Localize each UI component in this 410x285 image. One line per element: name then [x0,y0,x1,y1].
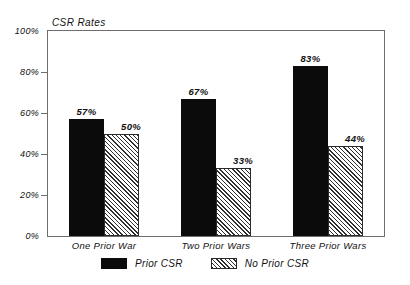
y-axis-tick-label: 100% [15,26,39,36]
bar-value-label: 44% [345,133,365,144]
solid-black-swatch [101,258,127,269]
bar-chart-figure: CSR Rates 0%20%40%60%80%100% 57%50%67%33… [0,0,410,285]
y-axis-tick-label: 0% [25,231,39,241]
bar-prior-csr-one-prior-war: 57% [69,119,104,236]
bar-value-label: 50% [121,121,141,132]
bar-prior-csr-two-prior-wars: 67% [181,99,216,236]
bar-prior-csr-three-prior-wars: 83% [293,66,328,236]
bars-layer: 57%50%67%33%83%44% [48,31,384,236]
bar-value-label: 67% [189,86,209,97]
legend-label: No Prior CSR [245,258,309,269]
y-axis-tick-label: 40% [20,149,39,159]
legend-entry: Prior CSR [101,258,183,269]
bar-value-label: 57% [77,106,97,117]
bar-no-prior-csr-one-prior-war: 50% [104,134,139,237]
bar-value-label: 83% [301,53,321,64]
legend-label: Prior CSR [135,258,183,269]
y-axis-tick-label: 80% [20,67,39,77]
x-axis-category-labels: One Prior WarTwo Prior WarsThree Prior W… [48,240,384,256]
legend-entry: No Prior CSR [211,258,309,269]
y-axis-tick-label: 20% [20,190,39,200]
chart-legend: Prior CSRNo Prior CSR [0,258,410,269]
x-axis-tick-label: One Prior War [72,240,136,251]
bar-no-prior-csr-two-prior-wars: 33% [216,168,251,236]
chart-title: CSR Rates [52,17,106,28]
hatched-swatch [211,258,237,269]
x-axis-tick-label: Two Prior Wars [182,240,251,251]
bar-value-label: 33% [233,155,253,166]
y-axis-tick-labels: 0%20%40%60%80%100% [0,0,44,285]
bar-no-prior-csr-three-prior-wars: 44% [328,146,363,236]
x-axis-tick-label: Three Prior Wars [290,240,367,251]
y-axis-tick-label: 60% [20,108,39,118]
